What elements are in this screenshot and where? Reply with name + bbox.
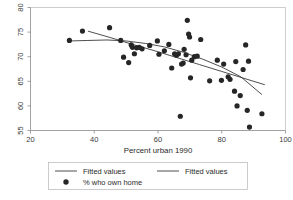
legend-marker-swatch <box>63 179 68 184</box>
x-tick-label: 60 <box>154 135 162 144</box>
data-point-marker <box>139 46 144 51</box>
data-point-marker <box>182 47 187 52</box>
data-point-marker <box>80 29 85 34</box>
data-point-marker <box>155 38 160 43</box>
data-point-marker <box>118 38 123 43</box>
data-point-marker <box>198 37 203 42</box>
y-tick-label: 65 <box>16 77 25 85</box>
legend-label-2: Fitted values <box>185 167 228 176</box>
data-point-marker <box>185 18 190 23</box>
legend-label-1: Fitted values <box>83 167 126 176</box>
x-tick-label: 20 <box>26 135 34 144</box>
data-point-marker <box>147 43 152 48</box>
data-point-marker <box>259 111 264 116</box>
y-tick-label: 60 <box>16 102 25 110</box>
data-point-marker <box>243 42 248 47</box>
x-tick-label: 40 <box>90 135 98 144</box>
data-point-marker <box>246 59 251 64</box>
data-point-marker <box>162 48 167 53</box>
data-point-marker <box>176 51 181 56</box>
data-point-marker <box>107 25 112 30</box>
data-point-marker <box>245 108 250 113</box>
data-point-marker <box>183 52 188 57</box>
data-point-marker <box>187 34 192 39</box>
fitted-values-line <box>69 40 262 95</box>
data-point-marker <box>227 77 232 82</box>
data-point-marker <box>121 55 126 60</box>
data-point-marker <box>169 65 174 70</box>
fitted-values-line <box>88 31 265 85</box>
x-tick-label: 80 <box>218 135 226 144</box>
data-point-marker <box>132 51 137 56</box>
data-point-marker <box>188 75 193 80</box>
y-tick-label: 70 <box>16 53 25 61</box>
data-point-marker <box>166 42 171 47</box>
data-point-marker <box>67 38 72 43</box>
data-point-marker <box>126 60 131 65</box>
scatter-plot-svg: 55606570758020406080100Percent urban 199… <box>0 0 293 200</box>
data-point-marker <box>234 103 239 108</box>
chart-figure: 55606570758020406080100Percent urban 199… <box>0 0 293 200</box>
legend-label-3: % who own home <box>83 178 142 187</box>
data-point-marker <box>247 124 252 129</box>
data-point-marker <box>215 58 220 63</box>
data-point-marker <box>195 54 200 59</box>
y-tick-label: 75 <box>16 28 25 36</box>
y-tick-label: 55 <box>16 126 25 134</box>
data-point-marker <box>221 61 226 66</box>
data-point-marker <box>238 93 243 98</box>
data-point-marker <box>232 89 237 94</box>
data-point-marker <box>233 59 238 64</box>
x-axis-title: Percent urban 1990 <box>124 146 193 155</box>
data-point-marker <box>178 114 183 119</box>
data-point-marker <box>207 78 212 83</box>
data-point-marker <box>156 52 161 57</box>
data-point-marker <box>181 61 186 66</box>
y-tick-label: 80 <box>16 3 25 11</box>
data-point-marker <box>241 67 246 72</box>
x-tick-label: 100 <box>279 135 292 144</box>
data-point-marker <box>219 78 224 83</box>
